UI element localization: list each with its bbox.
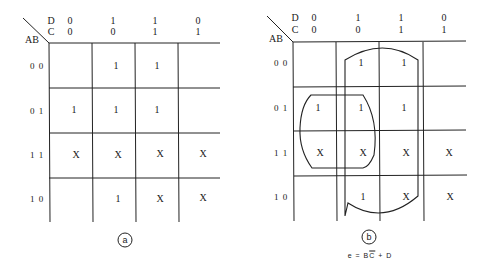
cell: 1 <box>114 61 119 71</box>
row-label-10: 1 0 <box>274 192 288 202</box>
equation: e = BC + D <box>348 252 393 259</box>
cell: 1 <box>155 105 160 115</box>
row-var-ab: AB <box>25 35 39 45</box>
cell: 1 <box>402 103 407 113</box>
cell: X <box>199 149 206 159</box>
eq-equals: = <box>356 252 361 259</box>
row-label-00: 0 0 <box>30 61 44 71</box>
cell: 1 <box>72 105 77 115</box>
col-3-d: 0 <box>442 13 447 23</box>
eq-lhs: e <box>348 252 353 259</box>
col-1-d: 1 <box>356 13 361 23</box>
col-0-d: 0 <box>68 16 73 26</box>
row-label-01: 0 1 <box>30 106 44 116</box>
col-1-d: 1 <box>111 16 116 26</box>
cell: X <box>359 148 366 158</box>
cell: X <box>156 194 163 204</box>
cell: X <box>402 192 409 202</box>
col-2-c: 1 <box>153 27 158 37</box>
cell: X <box>199 193 206 203</box>
cell: X <box>114 150 121 160</box>
row-label-11: 1 1 <box>30 150 44 160</box>
row-label-00: 0 0 <box>274 58 288 68</box>
caption-a: a <box>118 233 133 248</box>
col-1-c: 0 <box>111 27 116 37</box>
cell: 1 <box>155 61 160 71</box>
cell: 1 <box>316 103 321 113</box>
cell: X <box>316 148 323 158</box>
cell: 1 <box>402 58 407 68</box>
cell: X <box>446 192 453 202</box>
col-0-d: 0 <box>312 13 317 23</box>
cell: 1 <box>359 103 364 113</box>
row-label-01: 0 1 <box>274 103 288 113</box>
col-3-c: 1 <box>196 27 201 37</box>
col-2-d: 1 <box>399 13 404 23</box>
col-1-c: 0 <box>356 25 361 35</box>
col-0-c: 0 <box>312 25 317 35</box>
col-0-c: 0 <box>68 27 73 37</box>
cell: 1 <box>361 192 366 202</box>
row-var-ab: AB <box>269 34 283 44</box>
eq-term-d: D <box>386 252 392 259</box>
caption-b: b <box>362 230 377 245</box>
col-3-c: 1 <box>442 25 447 35</box>
cell: X <box>72 150 79 160</box>
cell: X <box>156 149 163 159</box>
cell: 1 <box>116 194 121 204</box>
eq-term-c-bar: C <box>369 252 375 259</box>
col-var-c: C <box>292 25 299 35</box>
cell: 1 <box>359 58 364 68</box>
cell: X <box>402 148 409 158</box>
row-label-11: 1 1 <box>274 148 288 158</box>
cell: 1 <box>114 105 119 115</box>
col-3-d: 0 <box>196 16 201 26</box>
kmap-b: D C AB 0 0 1 0 1 1 0 1 0 0 0 1 1 1 1 0 1… <box>244 0 488 266</box>
eq-plus: + <box>378 252 383 259</box>
cell: X <box>445 148 452 158</box>
row-label-10: 1 0 <box>30 194 44 204</box>
col-var-d: D <box>291 13 298 23</box>
col-var-c: C <box>48 27 55 37</box>
col-2-c: 1 <box>399 25 404 35</box>
kmap-a: D C AB 0 0 1 0 1 1 0 1 0 0 0 1 1 1 1 0 1… <box>0 0 244 266</box>
col-2-d: 1 <box>153 16 158 26</box>
col-var-d: D <box>47 16 54 26</box>
